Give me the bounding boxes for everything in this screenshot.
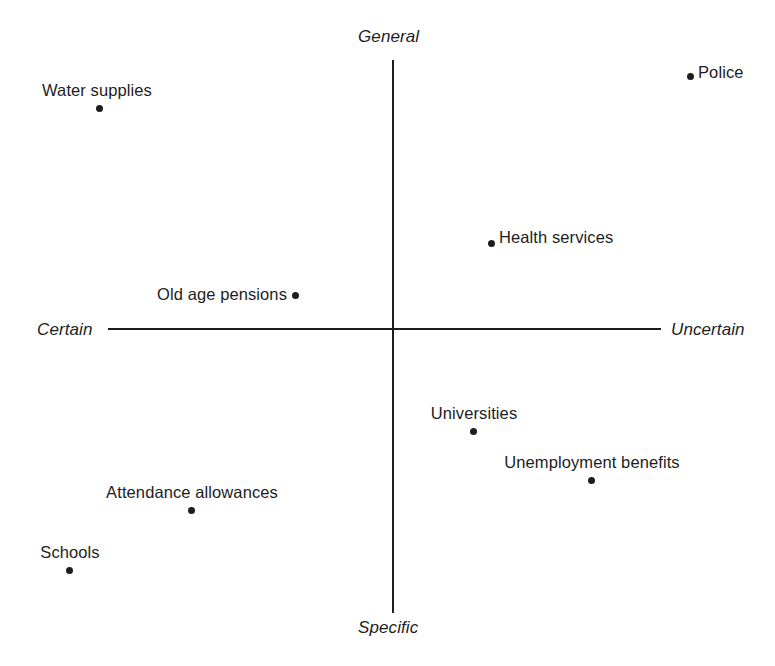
axis-label-specific: Specific	[358, 618, 418, 638]
quadrant-scatter-chart: General Specific Certain Uncertain Water…	[0, 0, 775, 666]
data-point-label: Schools	[40, 543, 99, 562]
horizontal-axis-line	[108, 328, 661, 330]
data-point-label: Police	[698, 63, 744, 82]
vertical-axis-line	[392, 60, 394, 613]
data-point-marker	[292, 292, 299, 299]
data-point-label: Universities	[431, 404, 517, 423]
data-point-label: Health services	[499, 228, 613, 247]
data-point-marker	[488, 240, 495, 247]
data-point-marker	[66, 567, 73, 574]
axis-label-uncertain: Uncertain	[671, 320, 745, 340]
data-point-label: Old age pensions	[157, 285, 287, 304]
axis-label-general: General	[358, 27, 419, 47]
data-point-marker	[188, 507, 195, 514]
data-point-marker	[588, 477, 595, 484]
axis-label-certain: Certain	[37, 320, 93, 340]
data-point-marker	[96, 105, 103, 112]
data-point-marker	[687, 73, 694, 80]
data-point-label: Unemployment benefits	[504, 453, 679, 472]
data-point-label: Water supplies	[42, 81, 152, 100]
data-point-marker	[470, 428, 477, 435]
data-point-label: Attendance allowances	[106, 483, 278, 502]
